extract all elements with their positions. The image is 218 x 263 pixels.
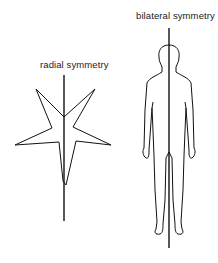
starfish-outline <box>15 89 111 185</box>
left-arm-inner <box>152 102 153 108</box>
right-arm-inner <box>185 102 186 108</box>
starfish-figure <box>15 89 111 185</box>
symmetry-diagram <box>0 0 218 263</box>
